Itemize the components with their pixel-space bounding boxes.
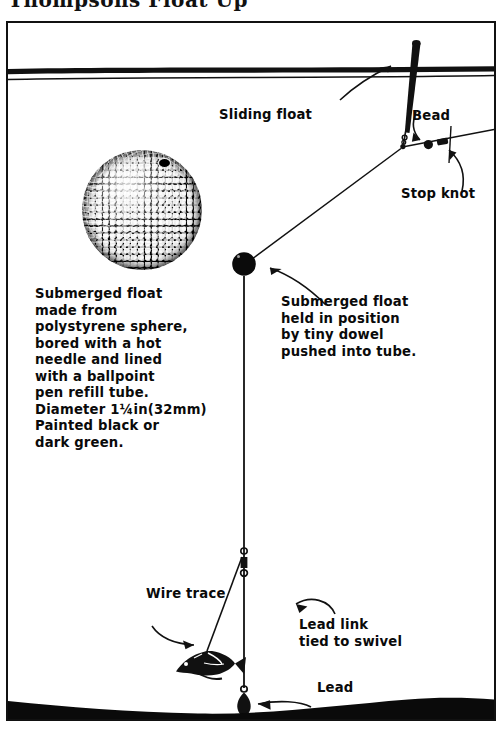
note-right-block: Submerged float held in position by tiny…: [281, 294, 416, 360]
polystyrene-sphere-photo: [82, 150, 202, 270]
leader-arrowheads: [183, 66, 457, 710]
clipped-header-strip: Thompsons Float Up: [0, 0, 504, 15]
wire-trace: [207, 557, 242, 651]
label-stop-knot: Stop knot: [401, 186, 475, 203]
stop-knot: [437, 126, 451, 163]
submerged-float-ball: [232, 252, 256, 276]
lead-weight: [237, 686, 250, 715]
bait-fish: [176, 651, 246, 679]
bead: [424, 140, 433, 149]
sliding-float: [400, 40, 420, 149]
water-surface-line: [8, 66, 494, 79]
label-sliding-float: Sliding float: [219, 107, 312, 124]
sphere-texture: [82, 150, 202, 270]
label-lead-link: Lead link tied to swivel: [299, 617, 402, 650]
label-bead: Bead: [412, 108, 450, 125]
diagram-page: Thompsons Float Up: [0, 0, 504, 730]
diagram-frame: Sliding float Bead Stop knot Submerged f…: [6, 21, 496, 721]
clipped-header-text: Thompsons Float Up: [8, 0, 248, 12]
label-lead: Lead: [317, 680, 354, 697]
label-wire-trace: Wire trace: [146, 586, 226, 603]
note-left-block: Submerged float made from polystyrene sp…: [35, 286, 207, 451]
fishing-line: [244, 130, 494, 689]
seabed: [8, 698, 494, 719]
